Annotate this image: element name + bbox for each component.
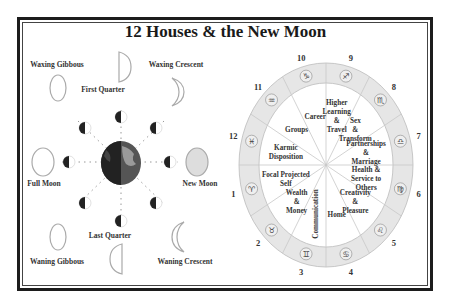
meaning-line: & <box>334 117 340 125</box>
zodiac-sign-icon: ♒ <box>266 94 278 106</box>
sign-glyph: ♍ <box>397 185 404 194</box>
zodiac-sign-icon: ♐ <box>340 70 352 82</box>
zodiac-sign-icon: ♈ <box>246 183 258 195</box>
meaning-line: Disposition <box>269 153 303 161</box>
meaning-line: Learning <box>323 108 352 116</box>
meaning-line: Service to <box>351 175 382 183</box>
inner-moon-bottom-right <box>150 197 162 209</box>
meaning-line: Focal Projected <box>262 171 310 179</box>
sign-glyph: ♊ <box>302 250 309 259</box>
sign-glyph: ♉ <box>268 226 275 235</box>
house-number: 3 <box>299 267 303 277</box>
waning-gibbous-moon-icon <box>50 224 66 250</box>
meaning-line: Career <box>305 113 327 121</box>
inner-moon-bottom <box>115 215 127 227</box>
sign-glyph: ♐ <box>342 72 349 81</box>
zodiac-sign-icon: ♎ <box>394 135 406 147</box>
zodiac-sign-icon: ♉ <box>266 224 278 236</box>
meaning-line: Marriage <box>352 158 381 166</box>
earth-icon <box>101 141 141 185</box>
house-number: 8 <box>392 82 396 92</box>
first-quarter-moon-icon <box>119 52 131 82</box>
meaning-line: Sex <box>350 117 361 125</box>
waxing-crescent-label: Waxing Crescent <box>149 60 204 69</box>
meaning-line: & <box>352 126 358 134</box>
new-moon-label: New Moon <box>183 179 219 188</box>
zodiac-sign-icon: ♌ <box>374 224 386 236</box>
zodiac-sign-icon: ♑ <box>300 70 312 82</box>
zodiac-sign-icon: ♏ <box>374 94 386 106</box>
house-number: 9 <box>349 53 353 63</box>
house-meaning: Career <box>305 113 327 121</box>
page-title: 12 Houses & the New Moon <box>0 22 451 42</box>
meaning-line: & <box>363 149 369 157</box>
house-meaning: Groups <box>285 126 308 134</box>
meaning-line: & <box>352 198 358 206</box>
house-number: 4 <box>349 267 354 277</box>
waxing-crescent-moon-icon <box>172 78 184 106</box>
zodiac-sign-icon: ♓ <box>246 135 258 147</box>
waxing-gibbous-label: Waxing Gibbous <box>30 60 84 69</box>
meaning-line: & <box>294 198 300 206</box>
waning-crescent-label: Waning Crescent <box>157 257 213 266</box>
house-number: 5 <box>392 238 396 248</box>
sign-glyph: ♋ <box>342 250 349 259</box>
house-number: 11 <box>254 82 262 92</box>
sign-glyph: ♎ <box>397 137 404 146</box>
last-quarter-moon-icon <box>110 244 122 274</box>
diagram: Waxing Gibbous First Quarter Waxing Cres… <box>0 0 451 307</box>
new-moon-icon <box>186 148 208 176</box>
house-number: 1 <box>231 189 235 199</box>
sign-glyph: ♏ <box>377 96 385 105</box>
meaning-line: Karmic <box>274 144 298 152</box>
meaning-line: Higher <box>326 99 348 107</box>
house-number: 2 <box>256 238 260 248</box>
meaning-line: Travel <box>327 126 347 134</box>
sign-glyph: ♓ <box>248 137 255 146</box>
zodiac-sign-icon: ♍ <box>394 183 406 195</box>
waxing-gibbous-moon-icon <box>50 75 66 101</box>
inner-moon-right <box>164 156 176 168</box>
inner-moon-top <box>115 111 127 123</box>
moon-phase-diagram: Waxing Gibbous First Quarter Waxing Cres… <box>27 52 218 274</box>
waning-crescent-moon-icon <box>172 222 184 252</box>
first-quarter-label: First Quarter <box>81 85 125 94</box>
zodiac-sign-icon: ♊ <box>300 248 312 260</box>
inner-moon-top-left <box>79 122 91 134</box>
inner-moon-left <box>63 156 75 168</box>
inner-moon-bottom-left <box>79 197 91 209</box>
inner-moon-top-right <box>150 122 162 134</box>
last-quarter-label: Last Quarter <box>89 231 132 240</box>
meaning-line: Others <box>356 184 377 192</box>
house-number: 12 <box>229 131 238 141</box>
meaning-line: Wealth <box>286 189 308 197</box>
sign-glyph: ♌ <box>377 226 384 235</box>
house-meaning: Communication <box>312 189 320 239</box>
full-moon-label: Full Moon <box>27 179 61 188</box>
meaning-line: Self <box>280 180 292 188</box>
meaning-line: Health & <box>352 166 381 174</box>
sign-glyph: ♑ <box>302 72 309 81</box>
sign-glyph: ♈ <box>248 185 255 194</box>
full-moon-icon <box>32 148 54 176</box>
house-number: 10 <box>297 53 306 63</box>
meaning-line: Groups <box>285 126 308 134</box>
meaning-line: Pleasure <box>342 207 368 215</box>
house-number: 7 <box>417 131 422 141</box>
meaning-line: Transform <box>339 135 372 143</box>
meaning-line: Money <box>286 207 308 215</box>
house-number: 6 <box>417 189 421 199</box>
zodiac-sign-icon: ♋ <box>340 248 352 260</box>
waning-gibbous-label: Waning Gibbous <box>30 257 84 266</box>
sign-glyph: ♒ <box>268 96 275 105</box>
house-wheel: ♈♉♊♋♌♍♎♏♐♑♒♓ 123456789101112 Focal Proje… <box>229 53 422 277</box>
